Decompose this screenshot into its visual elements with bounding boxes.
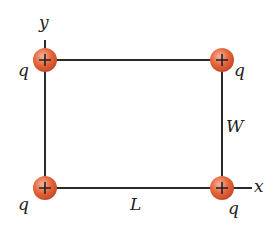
- x-axis-label: x: [254, 178, 264, 195]
- charge-label-bottom-right: q: [228, 200, 239, 217]
- charge-bottom-left: [33, 176, 57, 200]
- charge-label-top-left: q: [18, 62, 29, 79]
- charge-rectangle-diagram: y x q q q q L W: [0, 0, 279, 232]
- charge-top-right: [210, 48, 234, 72]
- y-axis-label: y: [39, 14, 49, 31]
- charge-label-bottom-left: q: [18, 196, 29, 213]
- charge-label-top-right: q: [234, 62, 245, 79]
- charge-bottom-right: [210, 176, 234, 200]
- length-label: L: [130, 196, 141, 213]
- charge-top-left: [33, 48, 57, 72]
- width-label: W: [226, 118, 243, 135]
